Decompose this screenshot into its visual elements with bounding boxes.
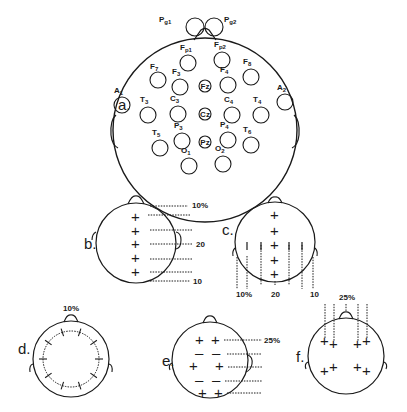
percent-label: 10 <box>310 290 319 299</box>
electrode-label: T6 <box>243 125 252 135</box>
electrode-site <box>170 106 186 122</box>
electrode-site <box>140 107 156 123</box>
electrode-fz: Fz <box>199 80 211 92</box>
tick-mark <box>90 340 96 345</box>
panel-label-d: d. <box>18 340 31 357</box>
panel-b: b. + + + + + 10% 20 10 <box>84 196 208 286</box>
electrode-c3: C3 <box>170 94 186 122</box>
plus-mark: + <box>270 265 279 282</box>
plus-mark: + <box>320 332 329 349</box>
electrode-pg2: Pg2 <box>205 15 237 36</box>
electrode-pg1: Pg1 <box>159 15 204 36</box>
electrode-label: F7 <box>150 62 159 72</box>
electrode-f4: F4 <box>220 65 236 93</box>
electrode-site <box>215 156 231 172</box>
ear-right <box>384 362 387 369</box>
electrode-label: Fp2 <box>214 40 227 50</box>
plus-mark: + <box>270 206 279 223</box>
ear-right <box>176 232 181 249</box>
electrode-pz: Pz <box>199 136 211 148</box>
plus-mark: + <box>329 335 338 352</box>
electrode-site <box>243 69 259 85</box>
electrode-site <box>150 72 166 88</box>
ear-left <box>305 362 308 369</box>
electrode-label: C4 <box>224 95 234 105</box>
percent-label: 10% <box>63 304 79 313</box>
electrode-label: A1 <box>114 86 124 96</box>
electrode-a2: A2 <box>277 83 293 110</box>
panel-c: c. + + + + + 10% 20 10 <box>222 197 319 299</box>
panel-a: a. Pg1Pg2Fp1Fp2F7F3FzF4F8A1T3C3CzC4T4A2T… <box>111 15 299 222</box>
electrode-label: Pg2 <box>224 15 237 25</box>
plus-mark: + <box>353 358 362 375</box>
electrode-label: F3 <box>172 67 181 77</box>
eeg-10-20-diagram: a. Pg1Pg2Fp1Fp2F7F3FzF4F8A1T3C3CzC4T4A2T… <box>0 0 407 412</box>
electrode-marks: + + – – + + – – + + <box>189 331 224 401</box>
circumference-ticks <box>39 329 103 390</box>
circumference-line <box>43 331 99 387</box>
electrode-fp2: Fp2 <box>214 40 230 68</box>
head-outline <box>172 322 248 398</box>
electrode-t3: T3 <box>140 95 156 123</box>
plus-mark: + <box>320 362 329 379</box>
plus-mark: + <box>329 358 338 375</box>
percent-label: 25% <box>339 293 355 302</box>
panel-d: d. 10% <box>18 304 112 397</box>
electrode-f7: F7 <box>150 62 166 88</box>
ear-left <box>30 364 33 372</box>
electrode-group: Pg1Pg2Fp1Fp2F7F3FzF4F8A1T3C3CzC4T4A2T5P3… <box>114 15 293 174</box>
electrode-p3: P3 <box>174 121 190 149</box>
panel-e: e. + + – – + + – – + + 25% <box>162 316 280 401</box>
ear-right <box>109 364 112 372</box>
panel-label-f: f. <box>296 348 304 365</box>
electrode-label: T3 <box>140 95 149 105</box>
electrode-t6: T6 <box>243 125 259 153</box>
electrode-site <box>186 18 204 36</box>
percent-label: 20 <box>271 290 280 299</box>
plus-mark: + <box>362 362 371 379</box>
electrode-cz: Cz <box>199 108 211 120</box>
electrode-site <box>224 107 240 123</box>
electrode-site <box>253 107 269 123</box>
tick-mark <box>45 340 51 345</box>
electrode-fp1: Fp1 <box>180 43 196 71</box>
electrode-site <box>205 18 223 36</box>
plus-mark: + <box>353 335 362 352</box>
plus-mark: + <box>131 263 140 280</box>
panel-label-b: b. <box>84 235 97 252</box>
electrode-label: T5 <box>152 128 161 138</box>
electrode-label: O1 <box>181 146 191 156</box>
percent-label: 10 <box>193 277 202 286</box>
electrode-t4: T4 <box>253 95 269 123</box>
electrode-o1: O1 <box>181 146 197 174</box>
electrode-site <box>152 140 168 156</box>
tick-mark <box>45 373 51 378</box>
electrode-label: Fp1 <box>180 43 193 53</box>
electrode-site <box>220 77 236 93</box>
electrode-site <box>243 137 259 153</box>
electrode-label: C3 <box>170 94 180 104</box>
midline-electrodes: + + + + + <box>270 206 279 282</box>
electrode-t5: T5 <box>152 128 168 156</box>
plus-mark: + <box>214 384 223 401</box>
electrode-f8: F8 <box>243 57 259 85</box>
panel-label-a: a. <box>118 96 131 113</box>
plus-mark: + <box>198 384 207 401</box>
electrode-label: F4 <box>220 65 229 75</box>
electrode-site <box>220 132 236 148</box>
electrode-site <box>180 55 196 71</box>
electrode-site <box>172 79 188 95</box>
plus-mark: + <box>362 332 371 349</box>
head-outline <box>113 38 297 222</box>
head-outline <box>308 318 384 394</box>
electrode-label: P3 <box>174 121 183 131</box>
electrode-p4: P4 <box>220 120 236 148</box>
panel-label-c: c. <box>222 221 234 238</box>
panel-f: f. 25% + + + + + + + + <box>296 293 387 394</box>
electrode-site <box>277 94 293 110</box>
percent-label: 10% <box>192 201 208 210</box>
electrode-marks: + + + + + + + + <box>320 332 371 379</box>
electrode-label: Pg1 <box>159 15 172 25</box>
tick-mark <box>90 373 96 378</box>
electrode-label: F8 <box>243 57 252 67</box>
